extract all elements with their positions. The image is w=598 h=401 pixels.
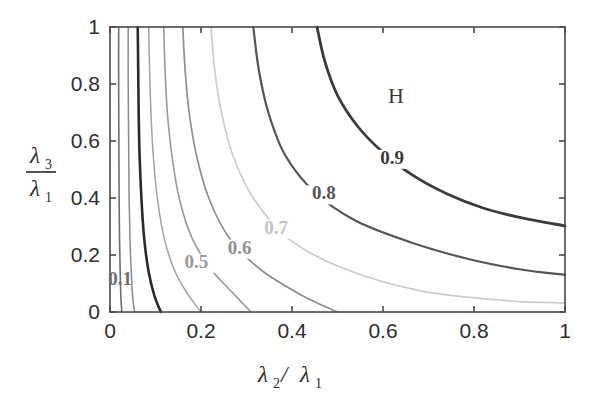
y-axis-title-lambda3: λ (29, 143, 40, 168)
x-axis-title-lambda1: λ (299, 362, 310, 387)
contour-plot-svg: 00.20.40.60.81 00.20.40.60.81 0.10.50.60… (0, 0, 598, 401)
region-label-H: H (388, 83, 404, 108)
x-tick-label-2: 0.4 (277, 319, 307, 342)
y-tick-label-5: 1 (88, 15, 100, 38)
x-tick-label-1: 0.2 (186, 319, 215, 342)
region-label-text: H (388, 83, 404, 108)
y-tick-label-4: 0.8 (71, 72, 100, 95)
x-axis-title-lambda2: λ (257, 362, 268, 387)
x-axis-title-sub2: 2 (273, 376, 280, 391)
y-axis-title-lambda1: λ (29, 176, 40, 201)
y-tick-label-3: 0.6 (71, 129, 100, 152)
contour-label-0-5: 0.5 (185, 251, 209, 272)
x-tick-label-3: 0.6 (368, 319, 397, 342)
x-axis-title-sub1: 1 (315, 376, 322, 391)
contour-label-0-7: 0.7 (264, 217, 288, 238)
contour-label-0-6: 0.6 (228, 237, 252, 258)
contour-label-0-8: 0.8 (312, 182, 336, 203)
y-axis-title-sub1: 1 (45, 190, 52, 205)
x-tick-label-5: 1 (559, 319, 571, 342)
x-tick-label-4: 0.8 (459, 319, 488, 342)
contour-label-0-9: 0.9 (380, 147, 404, 168)
y-tick-label-1: 0.2 (71, 243, 100, 266)
y-axis-title-sub3: 3 (45, 157, 52, 172)
contour-label-0-1: 0.1 (108, 268, 132, 289)
contour-figure: 00.20.40.60.81 00.20.40.60.81 0.10.50.60… (0, 0, 598, 401)
x-tick-label-0: 0 (104, 319, 116, 342)
y-tick-label-0: 0 (88, 300, 100, 323)
y-tick-label-2: 0.4 (71, 186, 101, 209)
